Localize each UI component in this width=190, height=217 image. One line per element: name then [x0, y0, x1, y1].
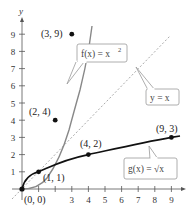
label-3-9: (3, 9) — [41, 28, 63, 40]
svg-text:3: 3 — [70, 195, 75, 205]
svg-text:4: 4 — [86, 195, 91, 205]
svg-text:5: 5 — [103, 195, 108, 205]
svg-text:2: 2 — [11, 150, 16, 160]
f-label-box: f(x) = x 2 — [67, 44, 127, 84]
x-tick-labels: 3 4 5 6 7 8 9 — [70, 195, 175, 205]
label-1-1: (1, 1) — [43, 172, 65, 184]
label-4-2: (4, 2) — [80, 138, 102, 150]
svg-text:4: 4 — [11, 116, 16, 126]
y-axis-arrow-icon — [20, 17, 24, 22]
svg-text:9: 9 — [11, 30, 16, 40]
svg-text:8: 8 — [11, 47, 16, 57]
svg-text:3: 3 — [11, 133, 16, 143]
point-3-9 — [69, 32, 74, 37]
svg-text:8: 8 — [153, 195, 158, 205]
svg-text:1: 1 — [11, 167, 16, 177]
y-tick-labels: 1 2 3 4 5 6 7 8 9 — [11, 30, 16, 178]
svg-text:9: 9 — [169, 195, 174, 205]
x-axis-arrow-icon — [181, 187, 186, 191]
svg-text:6: 6 — [119, 195, 124, 205]
point-9-3 — [169, 135, 174, 140]
g-label-box: g(x) = √x — [124, 146, 177, 179]
label-9-3: (9, 3) — [156, 123, 178, 135]
identity-label-box: y = x — [136, 67, 179, 105]
point-0-0 — [19, 186, 24, 191]
y-axis-label: y — [18, 6, 23, 16]
svg-text:2: 2 — [118, 46, 121, 53]
svg-text:y = x: y = x — [150, 93, 170, 103]
svg-text:g(x) = √x: g(x) = √x — [128, 164, 164, 175]
svg-text:5: 5 — [11, 99, 16, 109]
svg-text:f(x) = x: f(x) = x — [81, 49, 110, 60]
point-2-4 — [53, 118, 58, 123]
point-1-1 — [36, 169, 41, 174]
svg-text:7: 7 — [11, 64, 16, 74]
svg-text:7: 7 — [136, 195, 141, 205]
point-4-2 — [86, 152, 91, 157]
label-0-0: (0, 0) — [24, 194, 46, 206]
svg-text:6: 6 — [11, 81, 16, 91]
label-2-4: (2, 4) — [29, 106, 51, 118]
function-graph: y 3 4 5 6 7 8 9 1 2 3 4 5 6 — [0, 0, 190, 217]
